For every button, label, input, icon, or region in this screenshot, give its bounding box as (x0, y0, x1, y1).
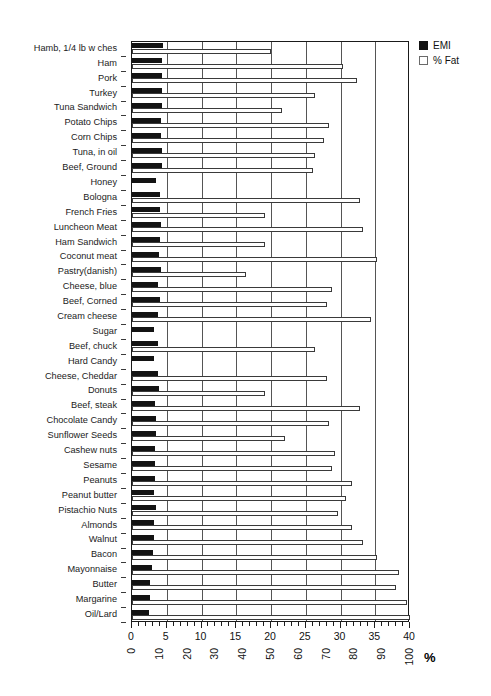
bar-row (132, 489, 408, 504)
bar-pct-fat (132, 436, 285, 441)
bar-pct-fat (132, 317, 371, 322)
axis-tick (319, 622, 320, 626)
bar-pct-fat (132, 525, 352, 530)
category-label: Sunflower Seeds (48, 431, 117, 440)
bar-pct-fat (132, 272, 246, 277)
axis-tick (131, 622, 132, 628)
axis-tick (374, 622, 375, 628)
bar-row (132, 310, 408, 325)
category-tick (121, 235, 126, 236)
category-tick (121, 324, 126, 325)
bar-pct-fat (132, 496, 346, 501)
bar-row (132, 280, 408, 295)
bar-pct-fat (132, 511, 338, 516)
bar-row (132, 563, 408, 578)
category-tick (121, 443, 126, 444)
category-label: Beef, chuck (69, 342, 117, 351)
bar-pct-fat (132, 227, 363, 232)
axis-tick (312, 622, 313, 626)
category-label: Tuna, in oil (72, 148, 117, 157)
bar-pct-fat (132, 421, 329, 426)
category-tick (121, 86, 126, 87)
axis-tick (395, 622, 396, 626)
axis-tick (270, 622, 271, 628)
category-tick (121, 264, 126, 265)
bar-row (132, 400, 408, 415)
category-tick (121, 488, 126, 489)
category-label: Honey (90, 178, 117, 187)
bar-row (132, 549, 408, 564)
category-tick (121, 518, 126, 519)
bar-row (132, 355, 408, 370)
legend-label-emi: EMI (433, 40, 451, 51)
bar-pct-fat (132, 213, 265, 218)
bar-row (132, 325, 408, 340)
category-label: Beef, Corned (63, 297, 117, 306)
bar-pct-fat (132, 555, 377, 560)
category-tick (121, 548, 126, 549)
category-tick (121, 354, 126, 355)
axis-label-pct-fat: 30 (208, 648, 220, 660)
axis-label-emi: 40 (403, 630, 415, 642)
bar-pct-fat (132, 93, 315, 98)
bar-pct-fat (132, 153, 315, 158)
bar-rows (132, 42, 408, 621)
category-label: Coconut meat (60, 252, 117, 261)
category-tick (121, 279, 126, 280)
legend-label-pct-fat: % Fat (433, 55, 459, 66)
bar-row (132, 414, 408, 429)
bar-pct-fat (132, 406, 360, 411)
category-tick (121, 473, 126, 474)
axis-tick (402, 622, 403, 626)
axis-label-emi: 20 (264, 630, 276, 642)
bar-row (132, 534, 408, 549)
category-tick (121, 294, 126, 295)
axis-tick (388, 622, 389, 626)
bar-row (132, 146, 408, 161)
axis-tick (152, 622, 153, 626)
bar-emi (132, 356, 154, 361)
category-label: Corn Chips (71, 133, 117, 142)
category-label: Almonds (81, 521, 117, 530)
bar-row (132, 72, 408, 87)
category-label: Margarine (76, 595, 117, 604)
category-tick (121, 369, 126, 370)
category-tick (121, 205, 126, 206)
axis-tick (180, 622, 181, 626)
category-label: Turkey (89, 89, 117, 98)
bar-row (132, 131, 408, 146)
category-tick (121, 309, 126, 310)
category-label: Cheese, Cheddar (45, 372, 117, 381)
category-tick (121, 622, 126, 623)
axis-label-pct-fat: 90 (375, 648, 387, 660)
category-tick (121, 145, 126, 146)
category-label: Cheese, blue (63, 282, 117, 291)
category-label: Beef, steak (71, 401, 117, 410)
axis-tick (340, 622, 341, 628)
category-label: Donuts (88, 386, 117, 395)
axis-tick (187, 622, 188, 626)
category-label: Tuna Sandwich (54, 103, 117, 112)
bar-row (132, 42, 408, 57)
bar-row (132, 340, 408, 355)
axis-tick (277, 622, 278, 626)
axis-label-pct-fat: 80 (347, 648, 359, 660)
category-tick (121, 533, 126, 534)
bar-pct-fat (132, 540, 363, 545)
bar-pct-fat (132, 451, 335, 456)
axis-tick (249, 622, 250, 626)
axis-tick (409, 622, 410, 628)
chart-legend: EMI % Fat (419, 40, 489, 70)
axis-tick (346, 622, 347, 626)
bar-pct-fat (132, 302, 327, 307)
axis-label-emi: 0 (128, 630, 134, 642)
category-tick (121, 458, 126, 459)
bar-pct-fat (132, 257, 377, 262)
bar-pct-fat (132, 168, 313, 173)
category-tick (121, 130, 126, 131)
bar-row (132, 265, 408, 280)
bar-pct-fat (132, 466, 332, 471)
bar-pct-fat (132, 108, 282, 113)
bar-pct-fat (132, 391, 265, 396)
axis-tick (159, 622, 160, 626)
